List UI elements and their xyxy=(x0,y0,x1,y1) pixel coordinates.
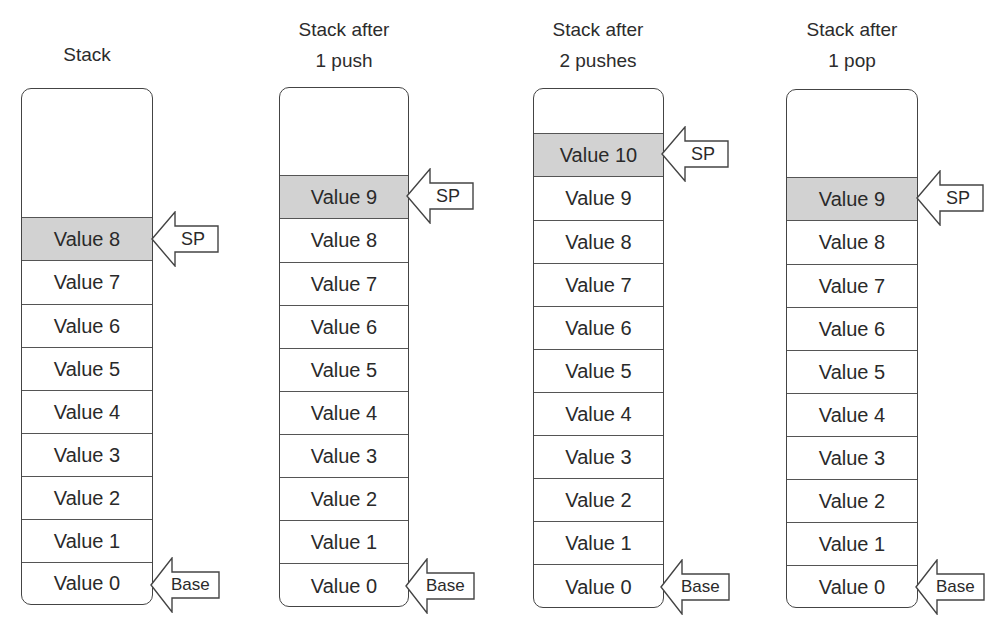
sp-pointer: SP xyxy=(916,170,990,226)
slot-value: Value 1 xyxy=(819,533,885,556)
stack-slot: Value 6 xyxy=(22,304,152,347)
stack-slot: Value 2 xyxy=(280,477,408,520)
stack-slot: Value 3 xyxy=(22,433,152,476)
stack-column-after-2-pushes: Value 10 Value 9 Value 8 Value 7 Value 6… xyxy=(533,88,664,608)
stack-diagram: Stack Value 8 Value 7 Value 6 Value 5 Va… xyxy=(0,0,1001,635)
stack-slot-top: Value 9 xyxy=(787,177,917,221)
title-line-2: 1 push xyxy=(254,45,434,76)
stack-slot: Value 4 xyxy=(787,393,917,436)
base-label: Base xyxy=(936,559,975,615)
stack-slot: Value 8 xyxy=(534,220,663,263)
stack-slot: Value 7 xyxy=(280,262,408,305)
stack-slot-top: Value 9 xyxy=(280,175,408,219)
base-label: Base xyxy=(171,557,210,613)
title-line-2: 2 pushes xyxy=(508,45,688,76)
slot-value: Value 6 xyxy=(565,317,631,340)
stack-slot: Value 4 xyxy=(534,392,663,435)
column-title-after-1-pop: Stack after 1 pop xyxy=(762,14,942,76)
base-label: Base xyxy=(426,558,465,614)
slot-value: Value 2 xyxy=(54,487,120,510)
stack-slot: Value 2 xyxy=(787,479,917,522)
slot-value: Value 6 xyxy=(819,318,885,341)
slot-value: Value 6 xyxy=(54,315,120,338)
slot-value: Value 7 xyxy=(819,275,885,298)
stack-slot: Value 3 xyxy=(787,436,917,479)
slot-value: Value 5 xyxy=(565,360,631,383)
slot-value: Value 7 xyxy=(311,273,377,296)
slot-value: Value 1 xyxy=(311,531,377,554)
slot-value: Value 2 xyxy=(311,488,377,511)
sp-label: SP xyxy=(946,170,970,226)
base-pointer: Base xyxy=(915,559,989,615)
sp-label: SP xyxy=(436,168,460,224)
slot-value: Value 4 xyxy=(311,402,377,425)
stack-slot: Value 5 xyxy=(534,349,663,392)
slot-value: Value 2 xyxy=(819,490,885,513)
slot-value: Value 8 xyxy=(311,229,377,252)
slot-value: Value 4 xyxy=(819,404,885,427)
sp-pointer: SP xyxy=(406,168,480,224)
stack-slot-bottom: Value 0 xyxy=(22,562,152,604)
slot-value: Value 5 xyxy=(819,361,885,384)
stack-slot: Value 1 xyxy=(280,520,408,563)
stack-slot: Value 5 xyxy=(22,347,152,390)
slot-value: Value 2 xyxy=(565,489,631,512)
slot-value: Value 10 xyxy=(560,144,637,167)
slot-value: Value 0 xyxy=(565,576,631,599)
slot-value: Value 0 xyxy=(819,576,885,599)
base-label: Base xyxy=(681,559,720,615)
slot-value: Value 6 xyxy=(311,316,377,339)
stack-slot: Value 7 xyxy=(787,264,917,307)
stack-slot: Value 4 xyxy=(280,391,408,434)
slot-value: Value 5 xyxy=(54,358,120,381)
slot-value: Value 7 xyxy=(565,274,631,297)
stack-slot: Value 9 xyxy=(534,177,663,220)
slot-value: Value 3 xyxy=(565,446,631,469)
base-pointer: Base xyxy=(150,557,224,613)
slot-value: Value 7 xyxy=(54,271,120,294)
stack-slot-top: Value 8 xyxy=(22,217,152,261)
title-line-2: 1 pop xyxy=(762,45,942,76)
slot-value: Value 9 xyxy=(565,187,631,210)
stack-slot: Value 2 xyxy=(534,478,663,521)
stack-slot: Value 6 xyxy=(534,306,663,349)
stack-column-after-1-push: Value 9 Value 8 Value 7 Value 6 Value 5 … xyxy=(279,87,409,607)
slot-value: Value 4 xyxy=(565,403,631,426)
slot-value: Value 8 xyxy=(54,228,120,251)
stack-slot-bottom: Value 0 xyxy=(534,564,663,608)
sp-label: SP xyxy=(691,126,715,182)
stack-slot: Value 4 xyxy=(22,390,152,433)
title-line-1: Stack after xyxy=(254,14,434,45)
column-title-after-1-push: Stack after 1 push xyxy=(254,14,434,76)
slot-value: Value 3 xyxy=(54,444,120,467)
slot-value: Value 9 xyxy=(819,188,885,211)
stack-slot: Value 3 xyxy=(534,435,663,478)
stack-slot: Value 1 xyxy=(534,521,663,564)
stack-slot: Value 6 xyxy=(280,305,408,348)
stack-slot-bottom: Value 0 xyxy=(787,565,917,608)
title-line-1: Stack after xyxy=(508,14,688,45)
sp-label: SP xyxy=(181,211,205,267)
slot-value: Value 5 xyxy=(311,359,377,382)
stack-slot: Value 1 xyxy=(22,519,152,562)
stack-slot: Value 7 xyxy=(534,263,663,306)
stack-slot: Value 5 xyxy=(787,350,917,393)
stack-slot: Value 7 xyxy=(22,261,152,304)
slot-value: Value 4 xyxy=(54,401,120,424)
sp-pointer: SP xyxy=(661,126,735,182)
slot-value: Value 8 xyxy=(565,231,631,254)
stack-slot: Value 2 xyxy=(22,476,152,519)
slot-value: Value 1 xyxy=(54,530,120,553)
stack-slot: Value 8 xyxy=(787,221,917,264)
base-pointer: Base xyxy=(405,558,479,614)
slot-value: Value 0 xyxy=(311,575,377,598)
sp-pointer: SP xyxy=(151,211,225,267)
stack-slot: Value 3 xyxy=(280,434,408,477)
stack-column-initial: Value 8 Value 7 Value 6 Value 5 Value 4 … xyxy=(21,88,153,605)
stack-slot: Value 1 xyxy=(787,522,917,565)
slot-value: Value 8 xyxy=(819,231,885,254)
stack-slot-top: Value 10 xyxy=(534,133,663,177)
slot-value: Value 3 xyxy=(819,447,885,470)
base-pointer: Base xyxy=(660,559,734,615)
stack-column-after-1-pop: Value 9 Value 8 Value 7 Value 6 Value 5 … xyxy=(786,89,918,608)
